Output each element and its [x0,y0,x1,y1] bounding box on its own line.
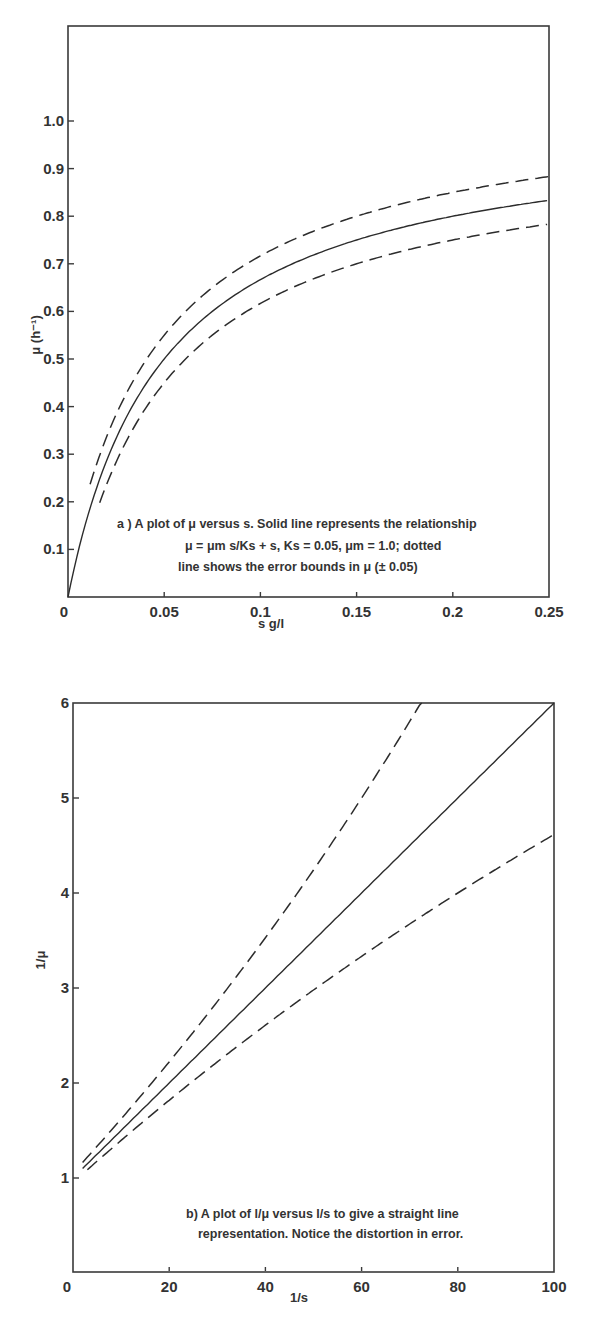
chart-b-x-axis-title: 1/s [290,1290,308,1305]
chart-a-caption-line1: a ) A plot of μ versus s. Solid line rep… [117,517,477,531]
chart-b-y-ticks: 123456 [61,694,79,1186]
figure: 0.10.20.30.40.50.60.70.80.91.0 00.050.10… [0,0,590,1325]
y-tick-label: 0.9 [43,160,64,177]
y-tick-label: 4 [61,884,70,901]
x-tick-label: 0.15 [342,603,371,620]
y-tick-label: 6 [61,694,69,711]
y-tick-label: 0.6 [43,302,64,319]
x-tick-label: 60 [353,1278,370,1295]
chart-a-caption-line2: μ = μm s/Ks + s, Ks = 0.05, μm = 1.0; do… [185,539,441,553]
chart-b-y-axis-title: 1/μ [33,951,48,970]
chart-a: 0.10.20.30.40.50.60.70.80.91.0 00.050.10… [28,26,564,631]
y-tick-label: 1 [61,1169,69,1186]
chart-a-y-axis-title: μ (h⁻¹) [28,315,43,355]
x-tick-label: 0 [60,603,68,620]
chart-b-upper-error-curve [83,703,422,1162]
x-tick-label: 40 [257,1278,274,1295]
y-tick-label: 0.5 [43,350,64,367]
y-tick-label: 0.4 [43,398,65,415]
y-tick-label: 2 [61,1074,69,1091]
x-tick-label: 80 [449,1278,466,1295]
y-tick-label: 0.1 [43,540,64,557]
y-tick-label: 0.3 [43,445,64,462]
chart-b-frame [73,703,554,1272]
y-tick-label: 5 [61,789,69,806]
chart-a-caption-line3: line shows the error bounds in μ (± 0.05… [178,560,418,574]
y-tick-label: 3 [61,979,69,996]
y-tick-label: 0.8 [43,207,64,224]
chart-a-solid-curve [68,201,547,597]
x-tick-label: 0.2 [442,603,463,620]
y-tick-label: 1.0 [43,112,64,129]
chart-a-upper-error-curve [90,177,549,485]
chart-b-caption-line2: representation. Notice the distortion in… [198,1227,463,1241]
chart-b-caption-line1: b) A plot of l/μ versus l/s to give a st… [186,1207,459,1221]
chart-b-x-ticks: 020406080100 [63,1267,567,1295]
x-tick-label: 0.05 [150,603,179,620]
chart-a-lower-error-curve [100,224,547,502]
y-tick-label: 0.7 [43,255,64,272]
chart-b-lower-error-curve [87,835,554,1170]
y-tick-label: 0.2 [43,493,64,510]
x-tick-label: 0.25 [534,603,563,620]
chart-a-frame [68,26,549,597]
chart-b-solid-line [83,703,554,1169]
chart-a-x-axis-title: s g/l [258,616,284,631]
chart-b: 123456 020406080100 1/μ 1/s b) A plot of… [33,694,567,1305]
x-tick-label: 0 [63,1278,71,1295]
x-tick-label: 20 [161,1278,178,1295]
x-tick-label: 100 [541,1278,566,1295]
chart-a-y-ticks: 0.10.20.30.40.50.60.70.80.91.0 [43,112,74,557]
